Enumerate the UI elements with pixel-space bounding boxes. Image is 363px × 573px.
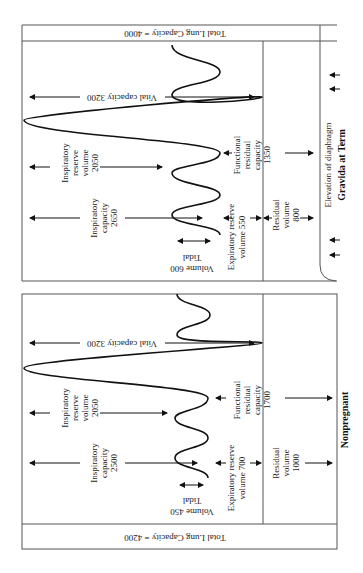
expiratory-reserve-label: Expiratory reserve volume 700	[226, 445, 247, 512]
vital-capacity-label: Vital capacity 3200	[87, 339, 157, 349]
svg-text:Functional: Functional	[232, 380, 242, 419]
svg-text:capacity: capacity	[252, 385, 262, 415]
svg-text:volume 700: volume 700	[237, 456, 247, 499]
residual-volume-label: Residual volume 800	[271, 199, 301, 231]
inspiratory-capacity-label: Inspiratory capacity 2650	[89, 198, 119, 238]
diaphragm-curve	[320, 265, 336, 281]
svg-text:Tidal: Tidal	[182, 496, 201, 506]
inspiratory-reserve-label: Inspiratory reserve volume 2050	[60, 143, 100, 183]
total-lung-capacity-label: Total Lung Capacity = 4200	[124, 533, 226, 543]
svg-text:Inspiratory: Inspiratory	[60, 388, 70, 428]
panel-gravida-at-term: Total Lung Capacity = 4000 Vital capacit…	[22, 25, 347, 281]
svg-text:Functional: Functional	[232, 135, 242, 174]
svg-text:Expiratory reserve: Expiratory reserve	[226, 204, 236, 271]
svg-text:Inspiratory: Inspiratory	[89, 198, 99, 238]
inspiratory-reserve-label: Inspiratory reserve volume 2050	[60, 388, 100, 428]
svg-text:Residual: Residual	[271, 447, 281, 479]
svg-text:Inspiratory: Inspiratory	[60, 143, 70, 183]
svg-text:800: 800	[291, 208, 301, 222]
svg-text:Inspiratory: Inspiratory	[89, 443, 99, 483]
panel-nonpregnant: Total Lung Capacity = 4200 Vital capacit…	[22, 294, 350, 549]
svg-text:reserve: reserve	[70, 395, 80, 421]
vital-capacity-label: Vital capacity 3200	[87, 93, 157, 103]
svg-text:residual: residual	[242, 385, 252, 414]
tidal-volume-label: Volume 600 Tidal	[170, 253, 214, 274]
svg-text:Expiratory reserve: Expiratory reserve	[226, 445, 236, 512]
expiratory-reserve-label: Expiratory reserve volume 550	[226, 204, 247, 271]
panel-title-gravida: Gravida at Term	[336, 129, 347, 201]
svg-text:volume: volume	[281, 449, 291, 476]
residual-volume-label: Residual volume 1000	[271, 447, 301, 479]
svg-text:residual: residual	[242, 140, 252, 169]
svg-text:capacity: capacity	[252, 140, 262, 170]
svg-text:capacity: capacity	[99, 448, 109, 478]
svg-text:1350: 1350	[262, 146, 272, 165]
tidal-volume-label: Volume 450 Tidal	[170, 496, 214, 517]
svg-text:Residual: Residual	[271, 199, 281, 231]
panel-title-nonpregnant: Nonpregnant	[339, 391, 350, 448]
svg-text:Volume 600: Volume 600	[170, 264, 214, 274]
svg-text:Tidal: Tidal	[182, 253, 201, 263]
lung-volumes-diagram: Total Lung Capacity = 4000 Vital capacit…	[0, 0, 363, 573]
svg-text:1700: 1700	[262, 391, 272, 410]
diaphragm-elevation-label: Elevation of diaphragm	[323, 123, 333, 208]
svg-text:2650: 2650	[109, 209, 119, 228]
svg-text:reserve: reserve	[70, 150, 80, 176]
svg-text:capacity: capacity	[99, 203, 109, 233]
svg-text:2050: 2050	[90, 154, 100, 173]
functional-residual-label: Functional residual capacity 1350	[232, 135, 272, 174]
svg-text:volume: volume	[80, 149, 90, 176]
svg-text:1000: 1000	[291, 454, 301, 473]
svg-text:2500: 2500	[109, 454, 119, 473]
svg-text:volume: volume	[281, 201, 291, 228]
svg-text:volume 550: volume 550	[237, 215, 247, 258]
functional-residual-label: Functional residual capacity 1700	[232, 380, 272, 419]
svg-text:2050: 2050	[90, 399, 100, 418]
inspiratory-capacity-label: Inspiratory capacity 2500	[89, 443, 119, 483]
svg-text:Volume 450: Volume 450	[170, 507, 214, 517]
total-lung-capacity-label: Total Lung Capacity = 4000	[124, 29, 226, 39]
svg-text:volume: volume	[80, 394, 90, 421]
